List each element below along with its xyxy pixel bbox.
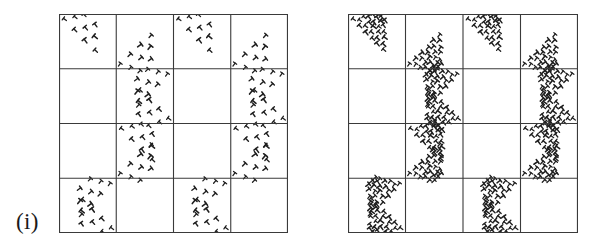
tally-mark-glyph [271, 107, 277, 113]
panel-ii: (ii) [304, 0, 608, 252]
tally-mark-glyph [202, 189, 208, 195]
tally-mark-glyph [129, 137, 135, 143]
tally-mark-glyph [262, 166, 268, 172]
tally-mark-glyph [261, 44, 268, 51]
tally-mark-glyph [201, 177, 206, 182]
sparse-tally-cluster [117, 143, 153, 184]
tally-mark-glyph [494, 194, 500, 200]
tally-mark-glyph [119, 126, 124, 131]
tally-mark-glyph [262, 33, 268, 39]
tally-mark-glyph [191, 186, 197, 192]
tally-mark-glyph [533, 166, 539, 171]
tally-mark-glyph [98, 179, 103, 184]
dense-tally-cluster [466, 14, 504, 53]
tally-mark-glyph [138, 88, 144, 94]
tally-mark-glyph [542, 139, 548, 145]
sparse-tally-cluster [231, 143, 267, 184]
tally-mark-glyph [251, 112, 257, 118]
tally-mark-glyph [242, 175, 247, 180]
tally-mark-glyph [379, 194, 385, 200]
tally-mark-glyph [369, 30, 375, 36]
tally-mark-glyph [248, 76, 254, 82]
tally-mark-glyph [379, 200, 385, 206]
tally-mark-glyph [241, 52, 247, 58]
tally-mark-glyph [447, 120, 452, 125]
tally-mark-glyph [109, 226, 114, 231]
sparse-tally-cluster [194, 197, 230, 233]
tally-mark-glyph [530, 133, 536, 139]
tally-mark-glyph [530, 127, 535, 132]
tally-mark-glyph [81, 197, 87, 203]
tally-mark-glyph [150, 132, 156, 138]
tally-mark-glyph [437, 160, 443, 165]
tally-mark-glyph [363, 24, 368, 30]
tally-mark-glyph [167, 116, 172, 121]
tally-mark-glyph [195, 197, 201, 203]
tally-mark-glyph [418, 56, 424, 61]
tally-mark-glyph [552, 160, 558, 165]
tally-mark-glyph [130, 124, 135, 129]
tally-mark-glyph [197, 38, 204, 45]
tally-mark-glyph [551, 109, 558, 116]
tally-mark-glyph [264, 132, 270, 138]
tally-mark-glyph [548, 99, 554, 105]
dense-tally-cluster [482, 197, 519, 233]
tally-mark-glyph [528, 62, 533, 67]
tally-mark-glyph [540, 155, 546, 161]
tally-mark-glyph [251, 178, 256, 183]
tally-mark-glyph [528, 172, 533, 177]
tally-mark-glyph [150, 157, 156, 163]
tally-mark-glyph [90, 207, 97, 214]
tally-mark-glyph [92, 34, 99, 41]
tally-mark-glyph [252, 88, 258, 94]
tally-mark-glyph [279, 72, 284, 77]
tally-mark-glyph [76, 186, 82, 192]
tally-mark-glyph [439, 133, 445, 139]
tally-mark-glyph [73, 15, 78, 20]
tally-mark-glyph [382, 184, 388, 190]
tally-mark-glyph [456, 116, 461, 121]
tally-mark-glyph [537, 77, 543, 83]
tally-mark-glyph [511, 181, 516, 186]
tally-mark-glyph [146, 44, 153, 51]
tally-mark-glyph [533, 56, 539, 61]
tally-mark-glyph [357, 23, 363, 29]
tally-mark-glyph [259, 80, 265, 86]
tally-mark-glyph [145, 80, 151, 86]
tally-mark-glyph [412, 56, 418, 62]
sparse-tally-cluster [62, 14, 99, 54]
tally-mark-glyph [478, 24, 483, 30]
tally-mark-glyph [136, 112, 142, 118]
tally-mark-glyph [211, 191, 217, 197]
tally-mark-glyph [506, 182, 511, 187]
tally-mark-glyph [379, 218, 386, 225]
tally-mark-glyph [137, 165, 143, 171]
tally-mark-glyph [413, 62, 418, 67]
tally-mark-glyph [429, 38, 435, 44]
tally-mark-glyph [473, 18, 478, 23]
tally-mark-glyph [147, 57, 153, 63]
tally-mark-glyph [107, 181, 112, 186]
tally-mark-glyph [224, 226, 229, 231]
tally-mark-glyph [550, 38, 556, 44]
tally-mark-glyph [377, 30, 383, 36]
tally-mark-glyph [431, 50, 437, 56]
tally-mark-glyph [436, 33, 441, 38]
tally-mark-glyph [207, 22, 213, 28]
tally-mark-glyph [426, 178, 431, 183]
tally-mark-glyph [255, 135, 261, 141]
tally-mark-glyph [552, 50, 558, 55]
tally-mark-glyph [559, 70, 564, 75]
tally-mark-glyph [431, 159, 437, 165]
tally-mark-glyph [139, 122, 144, 127]
tally-mark-glyph [137, 178, 142, 183]
tally-mark-glyph [551, 85, 557, 91]
tally-mark-glyph [137, 55, 143, 61]
tally-mark-glyph [136, 42, 143, 49]
tally-mark-glyph [261, 123, 266, 128]
panel-i: (i) [0, 0, 304, 252]
tally-mark-glyph [254, 122, 259, 127]
tally-mark-glyph [497, 47, 502, 52]
tally-mark-glyph [187, 15, 192, 20]
tally-mark-glyph [564, 73, 569, 78]
